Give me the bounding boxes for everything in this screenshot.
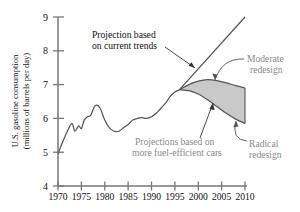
y-tick-label-7: 7	[43, 79, 48, 90]
x-tick-label-2005: 2005	[212, 191, 231, 202]
x-tick-label-1985: 1985	[119, 191, 138, 202]
annotation-current-trends-line2: on current trends	[92, 40, 157, 51]
annotation-moderate-leader	[215, 59, 244, 80]
current-trend-projection-line	[180, 17, 245, 90]
annotation-radical-redesign: Radical redesign	[233, 121, 282, 160]
y-tick-label-6: 6	[43, 113, 48, 124]
y-axis-label-line2: (millions of barrels per day)	[21, 53, 31, 150]
annotation-moderate-line2: redesign	[250, 64, 283, 75]
chart-figure: U.S. gasoline consumption (millions of b…	[0, 0, 300, 212]
y-tick-label-9: 9	[43, 12, 48, 23]
annotation-moderate-redesign: Moderate redesign	[212, 53, 284, 80]
annotation-radical-arrowhead	[233, 121, 238, 127]
y-axis-label-line1: U.S. gasoline consumption	[10, 54, 20, 147]
y-tick-label-8: 8	[43, 45, 48, 56]
x-axis-ticks: 1970 1975 1980 1985 1990 1995 2000 2005 …	[48, 182, 254, 203]
annotation-fuel-efficient-projections: Projections based on more fuel-efficient…	[132, 103, 222, 158]
x-tick-label-1975: 1975	[72, 191, 91, 202]
annotation-current-trends-arrowhead	[189, 62, 195, 68]
x-tick-label-1980: 1980	[95, 191, 114, 202]
annotation-moderate-line1: Moderate	[247, 53, 284, 64]
annotation-radical-line2: redesign	[249, 149, 282, 160]
annotation-projection-current-trends: Projection based on current trends	[92, 29, 195, 68]
y-axis-ticks: 9 8 7 6 5 4	[43, 12, 64, 192]
y-tick-label-4: 4	[43, 181, 48, 192]
x-tick-label-2000: 2000	[189, 191, 208, 202]
x-tick-label-1970: 1970	[48, 191, 67, 202]
y-axis-label: U.S. gasoline consumption (millions of b…	[10, 53, 31, 150]
x-tick-label-1995: 1995	[165, 191, 184, 202]
gasoline-consumption-chart: U.S. gasoline consumption (millions of b…	[0, 0, 300, 212]
annotation-fuel-efficient-line1: Projections based on	[135, 136, 215, 147]
y-tick-label-5: 5	[43, 147, 48, 158]
annotation-fuel-efficient-line2: more fuel-efficient cars	[132, 147, 222, 158]
annotation-current-trends-line1: Projection based	[92, 29, 156, 40]
annotation-radical-line1: Radical	[249, 138, 279, 149]
x-tick-label-2010: 2010	[235, 191, 254, 202]
x-tick-label-1990: 1990	[142, 191, 161, 202]
